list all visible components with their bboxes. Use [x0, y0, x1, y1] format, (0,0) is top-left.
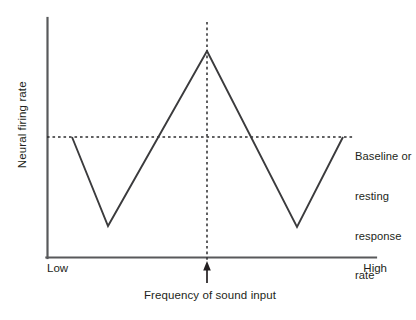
baseline-annotation: Baseline or resting response rate: [355, 124, 412, 309]
tuning-curve-figure: Neural firing rate Low High Frequency of…: [0, 0, 416, 320]
baseline-annotation-line-3: response: [355, 230, 412, 243]
baseline-annotation-line-1: Baseline or: [355, 150, 412, 163]
neural-response-curve: [72, 51, 343, 227]
baseline-annotation-line-4: rate: [355, 269, 412, 282]
y-axis-label: Neural firing rate: [16, 65, 30, 185]
baseline-annotation-line-2: resting: [355, 190, 412, 203]
x-tick-label-low: Low: [47, 262, 68, 276]
x-axis-label: Frequency of sound input: [120, 289, 300, 303]
center-frequency-arrow-icon: [203, 261, 211, 283]
